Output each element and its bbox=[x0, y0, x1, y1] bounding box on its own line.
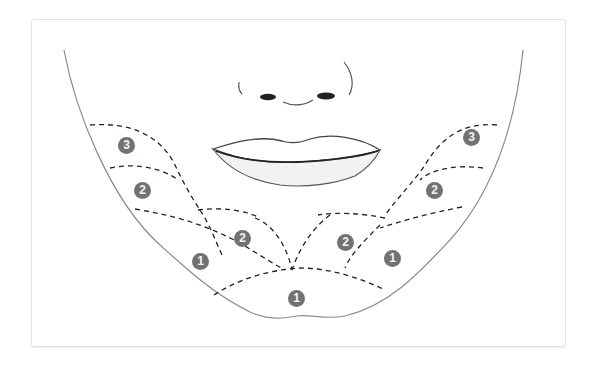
zone-badge-right-1: 1 bbox=[384, 250, 401, 267]
lips bbox=[213, 136, 380, 186]
nostril-right bbox=[317, 93, 335, 100]
zone-badge-left-2-outer: 2 bbox=[134, 182, 151, 199]
nose bbox=[239, 62, 352, 105]
nostril-left bbox=[260, 94, 276, 100]
zone-badge-left-3: 3 bbox=[118, 137, 135, 154]
zone-badge-right-2-outer: 2 bbox=[426, 182, 443, 199]
face-illustration bbox=[0, 0, 592, 367]
zone-badge-right-2-inner: 2 bbox=[337, 234, 354, 251]
zone-badge-left-2-inner: 2 bbox=[234, 230, 251, 247]
zone-badge-left-1: 1 bbox=[192, 253, 209, 270]
zone-badge-chin-1: 1 bbox=[288, 290, 305, 307]
zone-badge-right-3: 3 bbox=[463, 129, 480, 146]
